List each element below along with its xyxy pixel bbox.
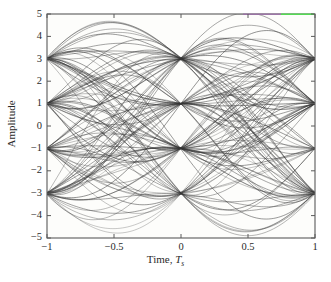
y-tick-label: 2 xyxy=(22,75,42,86)
x-tick-label: −0.5 xyxy=(96,241,132,252)
y-tick-label: −4 xyxy=(18,209,42,220)
y-tick-label: 3 xyxy=(22,53,42,64)
y-tick-label: 1 xyxy=(22,97,42,108)
x-axis-label-subscript: s xyxy=(181,259,184,268)
x-tick-label: −1 xyxy=(32,241,62,252)
x-axis-label-prefix: Time, xyxy=(147,253,175,265)
y-tick-label: 5 xyxy=(22,8,42,19)
y-tick-label: 0 xyxy=(22,120,42,131)
y-axis-label: Amplitude xyxy=(5,94,17,154)
x-axis-label: Time, Ts xyxy=(0,253,331,268)
y-tick-label: 4 xyxy=(22,30,42,41)
eye-diagram-plot xyxy=(0,0,331,282)
figure-container: 5 4 3 2 1 0 −1 −2 −3 −4 −5 −1 −0.5 0 0.5… xyxy=(0,0,331,282)
x-tick-label: 0.5 xyxy=(231,241,265,252)
y-tick-label: −2 xyxy=(18,164,42,175)
x-tick-label: 1 xyxy=(300,241,330,252)
y-tick-label: −3 xyxy=(18,187,42,198)
y-tick-label: −1 xyxy=(18,142,42,153)
x-tick-label: 0 xyxy=(166,241,196,252)
